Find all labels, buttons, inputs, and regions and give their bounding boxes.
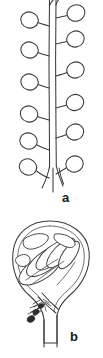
inner-organ-cluster [14, 234, 83, 292]
bud-right-5 [56, 122, 86, 143]
bud-right-2 [56, 29, 87, 50]
axis-apex [50, 0, 59, 6]
figure-panel-a [0, 0, 103, 215]
bud-left-5 [17, 130, 49, 151]
bud-group-left [17, 10, 50, 178]
panel-b-drawing [0, 215, 103, 358]
bud-left-4 [18, 104, 49, 125]
panel-a-drawing [0, 0, 103, 215]
panel-label-a: a [62, 191, 69, 204]
inflorescence-axis [49, 0, 56, 168]
bud-right-6 [56, 153, 86, 174]
receptacle-junction [26, 293, 58, 324]
panel-label-b: b [70, 330, 78, 343]
bud-left-6 [17, 156, 50, 178]
pedicel-stalk [44, 315, 57, 347]
bud-right-4 [56, 92, 86, 113]
figure-plate: a b [0, 0, 103, 358]
bud-left-3 [19, 72, 49, 93]
figure-panel-b [0, 215, 103, 358]
bud-left-1 [19, 10, 50, 31]
bud-right-3 [56, 60, 87, 81]
stem-base-fork [42, 166, 64, 192]
bud-right-1 [56, 2, 87, 23]
bud-group-right [56, 2, 87, 174]
bud-left-2 [19, 40, 49, 61]
